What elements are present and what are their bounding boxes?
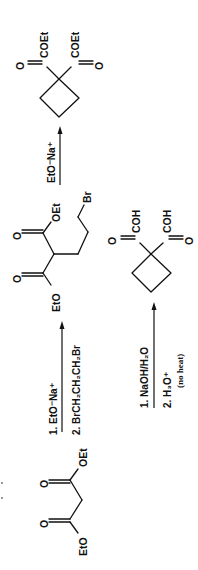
ester-label-oet: OEt (50, 203, 62, 222)
reagent-step3-note: (no heat) (175, 354, 185, 388)
carbonyl-oxygen: O (14, 62, 26, 70)
reagent-step1-1: 1. EtO⁻Na⁺ (48, 383, 59, 435)
carbonyl-oxygen: O (38, 480, 50, 488)
reagent-step3-1: 1. NaOH/H₂O (139, 347, 150, 408)
reaction-scheme: O O COEt COEt EtO⁻Na⁺ O O OEt EtO Br (0, 0, 198, 570)
carbonyl-oxygen: O (93, 62, 105, 70)
arrowhead-icon (152, 302, 157, 310)
cyclobutane-diacid: O O COH COH (106, 210, 195, 292)
bromine-label: Br (81, 191, 93, 203)
bromopropyl-malonate: O O OEt EtO Br (11, 191, 93, 312)
reaction-arrow-step3: 1. NaOH/H₂O 2. H₃O⁺ (no heat) (139, 302, 185, 408)
arrowhead-icon (60, 321, 65, 329)
carbonyl-oxygen: O (106, 237, 118, 245)
arrowhead-icon (58, 126, 63, 134)
reagent-step1-2: 2. BrCH₂CH₂CH₂Br (71, 345, 82, 435)
carbonyl-oxygen: O (183, 237, 195, 245)
cyclobutane-diester: O O COEt COEt (14, 31, 105, 117)
acid-group-label: COH (161, 210, 173, 233)
carbonyl-oxygen: O (11, 275, 23, 283)
ester-label-eto: EtO (50, 293, 62, 312)
cyclobutane-ring (40, 79, 79, 117)
diethyl-malonate: O O OEt EtO (38, 448, 89, 556)
carbonyl-oxygen: O (38, 520, 50, 528)
ester-label-eto: EtO (77, 537, 89, 556)
cyclobutane-ring (132, 254, 171, 292)
reaction-arrow-step2: EtO⁻Na⁺ (46, 126, 63, 185)
reaction-arrow-step1: 1. EtO⁻Na⁺ 2. BrCH₂CH₂CH₂Br (48, 321, 82, 435)
carbonyl-oxygen: O (11, 232, 23, 240)
reagent-step3-2: 2. H₃O⁺ (162, 372, 173, 408)
stray-mark (1, 482, 3, 484)
ester-group-label: COEt (69, 31, 81, 58)
ester-group-label: COEt (38, 31, 50, 58)
acid-group-label: COH (130, 210, 142, 233)
stray-mark (1, 497, 3, 499)
reagent-step2: EtO⁻Na⁺ (46, 142, 57, 183)
ester-label-oet: OEt (77, 448, 89, 467)
